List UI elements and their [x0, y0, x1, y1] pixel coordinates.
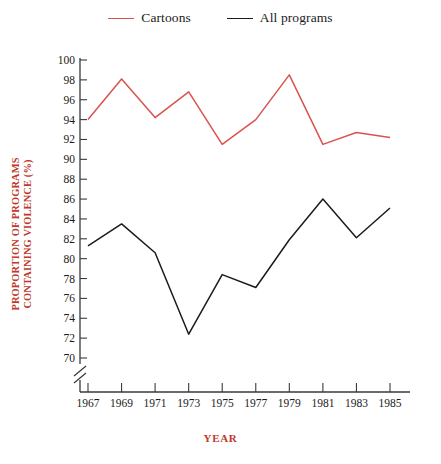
x-tick-label: 1967 — [77, 397, 100, 409]
x-tick-label: 1969 — [110, 397, 133, 409]
violence-line-chart: Cartoons All programs 707274767880828486… — [0, 0, 441, 464]
y-tick-label: 72 — [64, 332, 76, 344]
series-lines — [88, 75, 390, 334]
y-tick-label: 80 — [64, 253, 76, 265]
y-tick-label: 74 — [64, 312, 76, 324]
line-cartoons — [88, 75, 390, 144]
y-axis-title-line2: CONTAINING VIOLENCE (%) — [22, 118, 34, 350]
line-all-programs — [88, 199, 390, 334]
x-tick-label: 1985 — [379, 397, 402, 409]
x-tick-label: 1971 — [144, 397, 167, 409]
x-tick-label: 1979 — [278, 397, 301, 409]
y-tick-label: 100 — [58, 54, 76, 66]
y-tick-label: 84 — [64, 213, 76, 225]
y-tick-label: 82 — [64, 233, 76, 245]
y-tick-label: 90 — [64, 153, 76, 165]
x-tick-label: 1981 — [311, 397, 334, 409]
y-tick-label: 94 — [64, 114, 76, 126]
y-tick-label: 96 — [64, 94, 76, 106]
x-tick-label: 1973 — [177, 397, 200, 409]
x-axis: 1967196919711973197519771979198119831985 — [77, 383, 411, 409]
x-axis-title: YEAR — [0, 432, 441, 444]
x-tick-label: 1983 — [345, 397, 368, 409]
y-tick-label: 78 — [64, 273, 76, 285]
y-tick-label: 98 — [64, 74, 76, 86]
y-tick-label: 70 — [64, 352, 76, 364]
x-tick-label: 1975 — [211, 397, 234, 409]
y-tick-label: 88 — [64, 173, 76, 185]
x-tick-label: 1977 — [244, 397, 267, 409]
y-axis-title-line1: PROPORTION OF PROGRAMS — [10, 118, 22, 350]
y-tick-label: 86 — [64, 193, 76, 205]
y-axis: 707274767880828486889092949698100 — [58, 54, 87, 392]
y-tick-label: 76 — [64, 292, 76, 304]
y-tick-label: 92 — [64, 133, 76, 145]
plot-area: 707274767880828486889092949698100 196719… — [0, 0, 441, 464]
